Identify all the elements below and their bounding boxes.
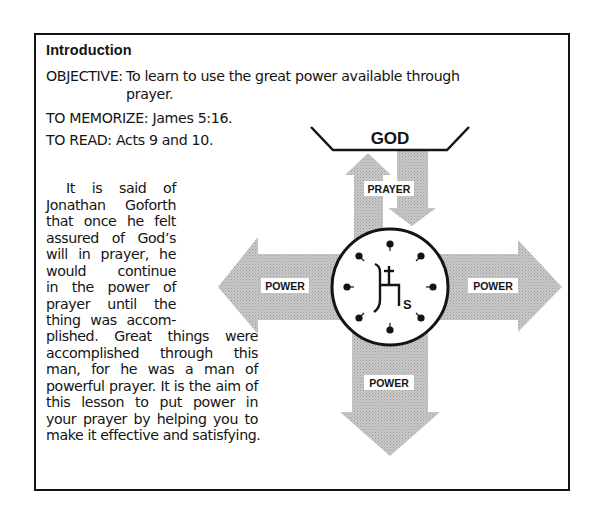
god-label: GOD bbox=[371, 129, 410, 148]
center-letter: S bbox=[403, 297, 412, 312]
prayer-power-diagram: S GOD PRAYER POWER POWER POWER bbox=[0, 0, 594, 518]
power-right-label: POWER bbox=[473, 280, 513, 292]
clock-face-icon bbox=[332, 229, 448, 345]
power-arrow-down-icon bbox=[340, 330, 440, 456]
power-bottom-label: POWER bbox=[369, 377, 409, 389]
prayer-arrow-up-icon bbox=[345, 153, 391, 240]
prayer-label: PRAYER bbox=[368, 183, 411, 195]
power-left-label: POWER bbox=[265, 280, 305, 292]
